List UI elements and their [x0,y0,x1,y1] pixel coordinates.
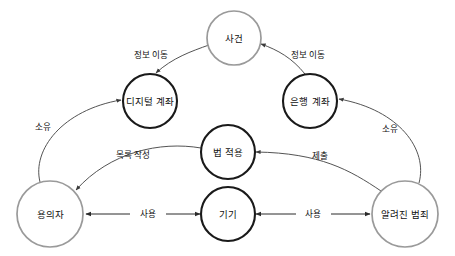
node-known-crime-label: 알려진 범죄 [381,209,429,220]
edge-label-law-application-to-suspect: 목록 작성 [116,150,151,160]
node-incident[interactable]: 사건 [207,11,261,65]
edge-label-suspect-to-digital-account: 소유 [35,122,51,132]
edge-suspect-to-digital-account [39,100,121,182]
node-digital-account-label: 디지털 계좌 [126,96,174,107]
node-incident-label: 사건 [225,33,243,44]
edge-label-known-crime-to-law-application: 제출 [312,151,328,161]
edge-label-bank-account-to-incident: 정보 이동 [291,50,326,60]
node-bank-account[interactable]: 은행 계좌 [283,74,337,128]
edge-label-incident-to-digital-account: 정보 이동 [134,50,169,60]
node-law-application-label: 법 적용 [213,147,243,158]
node-device[interactable]: 기기 [201,187,255,241]
node-digital-account[interactable]: 디지털 계좌 [123,74,177,128]
nodes-layer: 사건 디지털 계좌 은행 계좌 법 적용 용의자 기기 [17,11,438,247]
node-suspect-label: 용의자 [37,209,64,220]
node-device-label: 기기 [219,209,237,220]
node-bank-account-label: 은행 계좌 [290,96,329,107]
node-law-application[interactable]: 법 적용 [201,125,255,179]
edge-label-device-known-crime-use: 사용 [305,209,321,219]
edge-known-crime-to-bank-account [339,99,421,183]
node-known-crime[interactable]: 알려진 범죄 [372,181,438,247]
edge-label-suspect-device-use: 사용 [140,209,156,219]
edge-label-known-crime-to-bank-account: 소유 [382,124,398,134]
diagram-canvas: 정보 이동 정보 이동 소유 소유 목록 작성 제출 사용 사용 사건 디지털 … [0,0,455,256]
node-suspect[interactable]: 용의자 [17,181,83,247]
graph-svg: 정보 이동 정보 이동 소유 소유 목록 작성 제출 사용 사용 사건 디지털 … [0,0,455,256]
